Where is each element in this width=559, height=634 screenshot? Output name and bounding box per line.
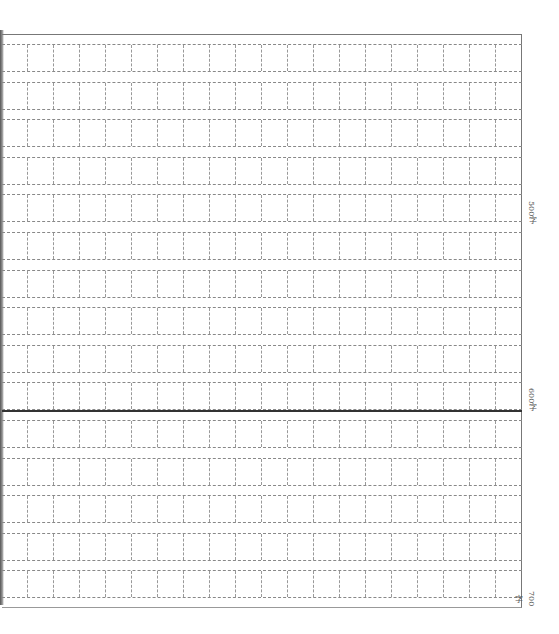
grid-cell[interactable]	[366, 459, 392, 485]
grid-cell[interactable]	[496, 534, 522, 560]
grid-cell[interactable]	[418, 459, 444, 485]
grid-cell[interactable]	[366, 346, 392, 372]
grid-cell[interactable]	[444, 195, 470, 221]
grid-cell[interactable]	[158, 534, 184, 560]
grid-cell[interactable]	[28, 83, 54, 109]
grid-cell[interactable]	[106, 459, 132, 485]
grid-cell[interactable]	[210, 195, 236, 221]
grid-cell[interactable]	[340, 45, 366, 71]
grid-cell[interactable]	[132, 308, 158, 334]
grid-cell[interactable]	[340, 233, 366, 259]
grid-cell[interactable]	[496, 459, 522, 485]
grid-cell[interactable]	[496, 571, 522, 597]
grid-cell[interactable]	[470, 534, 496, 560]
grid-cell[interactable]	[28, 571, 54, 597]
grid-cell[interactable]	[444, 346, 470, 372]
grid-cell[interactable]	[132, 120, 158, 146]
grid-cell[interactable]	[28, 346, 54, 372]
grid-cell[interactable]	[184, 459, 210, 485]
grid-cell[interactable]	[2, 233, 28, 259]
grid-cell[interactable]	[236, 158, 262, 184]
grid-cell[interactable]	[314, 45, 340, 71]
grid-cell[interactable]	[314, 83, 340, 109]
grid-cell[interactable]	[54, 45, 80, 71]
grid-cell[interactable]	[340, 534, 366, 560]
grid-cell[interactable]	[392, 158, 418, 184]
grid-cell[interactable]	[158, 571, 184, 597]
grid-cell[interactable]	[132, 346, 158, 372]
grid-cell[interactable]	[470, 83, 496, 109]
grid-cell[interactable]	[418, 571, 444, 597]
grid-cell[interactable]	[444, 571, 470, 597]
grid-cell[interactable]	[106, 83, 132, 109]
grid-cell[interactable]	[314, 383, 340, 409]
grid-cell[interactable]	[236, 383, 262, 409]
grid-cell[interactable]	[418, 534, 444, 560]
grid-cell[interactable]	[444, 534, 470, 560]
grid-cell[interactable]	[392, 496, 418, 522]
grid-cell[interactable]	[262, 120, 288, 146]
grid-cell[interactable]	[106, 120, 132, 146]
grid-cell[interactable]	[314, 346, 340, 372]
grid-cell[interactable]	[106, 271, 132, 297]
grid-cell[interactable]	[470, 195, 496, 221]
grid-cell[interactable]	[418, 195, 444, 221]
grid-cell[interactable]	[340, 271, 366, 297]
grid-cell[interactable]	[184, 120, 210, 146]
grid-cell[interactable]	[418, 421, 444, 447]
grid-cell[interactable]	[470, 45, 496, 71]
grid-cell[interactable]	[340, 346, 366, 372]
grid-cell[interactable]	[158, 83, 184, 109]
grid-cell[interactable]	[210, 383, 236, 409]
grid-cell[interactable]	[158, 158, 184, 184]
grid-cell[interactable]	[366, 233, 392, 259]
grid-cell[interactable]	[288, 308, 314, 334]
grid-cell[interactable]	[366, 83, 392, 109]
grid-cell[interactable]	[158, 421, 184, 447]
grid-cell[interactable]	[2, 534, 28, 560]
grid-cell[interactable]	[444, 45, 470, 71]
grid-cell[interactable]	[262, 496, 288, 522]
grid-cell[interactable]	[54, 83, 80, 109]
grid-cell[interactable]	[106, 233, 132, 259]
grid-cell[interactable]	[158, 195, 184, 221]
grid-cell[interactable]	[54, 346, 80, 372]
grid-cell[interactable]	[366, 534, 392, 560]
grid-cell[interactable]	[262, 571, 288, 597]
grid-cell[interactable]	[2, 346, 28, 372]
grid-cell[interactable]	[288, 496, 314, 522]
grid-cell[interactable]	[418, 346, 444, 372]
grid-cell[interactable]	[470, 383, 496, 409]
grid-cell[interactable]	[80, 459, 106, 485]
grid-cell[interactable]	[418, 45, 444, 71]
grid-cell[interactable]	[262, 83, 288, 109]
grid-cell[interactable]	[496, 45, 522, 71]
grid-cell[interactable]	[54, 421, 80, 447]
grid-cell[interactable]	[314, 459, 340, 485]
grid-cell[interactable]	[392, 346, 418, 372]
grid-cell[interactable]	[470, 308, 496, 334]
grid-cell[interactable]	[132, 45, 158, 71]
grid-cell[interactable]	[392, 195, 418, 221]
grid-cell[interactable]	[106, 158, 132, 184]
grid-cell[interactable]	[2, 421, 28, 447]
grid-cell[interactable]	[132, 534, 158, 560]
grid-cell[interactable]	[314, 496, 340, 522]
grid-cell[interactable]	[236, 459, 262, 485]
grid-cell[interactable]	[366, 271, 392, 297]
grid-cell[interactable]	[262, 534, 288, 560]
grid-cell[interactable]	[288, 571, 314, 597]
grid-cell[interactable]	[418, 271, 444, 297]
grid-cell[interactable]	[236, 421, 262, 447]
grid-cell[interactable]	[184, 195, 210, 221]
grid-cell[interactable]	[28, 459, 54, 485]
grid-cell[interactable]	[28, 195, 54, 221]
grid-cell[interactable]	[2, 571, 28, 597]
grid-cell[interactable]	[184, 158, 210, 184]
grid-cell[interactable]	[262, 195, 288, 221]
grid-cell[interactable]	[132, 158, 158, 184]
grid-cell[interactable]	[392, 383, 418, 409]
grid-cell[interactable]	[288, 83, 314, 109]
grid-cell[interactable]	[2, 120, 28, 146]
grid-cell[interactable]	[54, 571, 80, 597]
